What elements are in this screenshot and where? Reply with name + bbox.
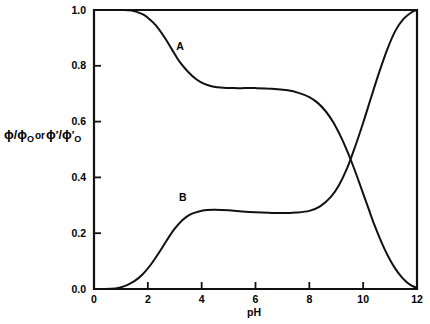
y-axis-phi-3: ϕ bbox=[46, 127, 56, 142]
y-axis-phi-4: ϕ bbox=[62, 127, 72, 142]
y-axis-title: ϕ/ϕOorϕ′/ϕ′O bbox=[4, 128, 90, 144]
y-tick-label: 0.6 bbox=[71, 115, 86, 127]
y-tick-label: 0.0 bbox=[71, 283, 86, 295]
y-axis-subscript-1: O bbox=[27, 134, 34, 144]
x-tick-label: 6 bbox=[253, 293, 259, 305]
y-tick-label: 1.0 bbox=[71, 4, 86, 16]
y-axis-phi-1: ϕ bbox=[4, 127, 14, 142]
x-tick-label: 8 bbox=[306, 293, 312, 305]
y-tick-label: 0.4 bbox=[71, 171, 86, 183]
x-axis-title: pH bbox=[247, 306, 261, 318]
curve-label-a: A bbox=[176, 40, 184, 52]
data-curve-a bbox=[94, 10, 417, 288]
x-tick-label: 0 bbox=[91, 293, 97, 305]
curve-label-b: B bbox=[179, 191, 187, 203]
y-tick-label: 0.8 bbox=[71, 59, 86, 71]
x-tick-label: 4 bbox=[199, 293, 205, 305]
chart-canvas: 0.00.20.40.60.81.0 024681012 AB pH bbox=[0, 0, 430, 324]
data-curve-b bbox=[94, 10, 417, 289]
y-axis-conjunction: or bbox=[34, 130, 46, 141]
chart-figure: 0.00.20.40.60.81.0 024681012 AB pH ϕ/ϕOo… bbox=[0, 0, 430, 324]
y-axis-subscript-2: O bbox=[74, 134, 81, 144]
x-axis-tick-labels: 024681012 bbox=[91, 293, 423, 305]
data-series-group bbox=[94, 10, 417, 289]
y-tick-label: 0.2 bbox=[71, 227, 86, 239]
x-tick-label: 2 bbox=[145, 293, 151, 305]
x-tick-label: 10 bbox=[357, 293, 369, 305]
x-tick-label: 12 bbox=[411, 293, 423, 305]
y-axis-phi-2: ϕ bbox=[17, 127, 27, 142]
plot-frame bbox=[94, 10, 417, 289]
y-axis-tick-labels: 0.00.20.40.60.81.0 bbox=[71, 4, 86, 295]
